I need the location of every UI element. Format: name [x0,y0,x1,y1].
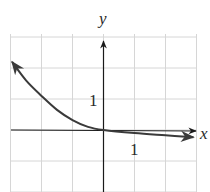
y-tick-label: 1 [89,91,98,110]
y-axis-label: y [97,9,107,28]
function-graph: y x 1 1 [0,0,210,192]
x-tick-label: 1 [130,140,139,159]
x-axis-label: x [199,124,208,143]
